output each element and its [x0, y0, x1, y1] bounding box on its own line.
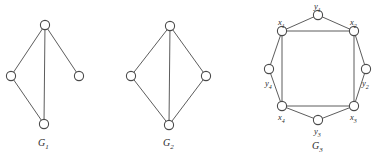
graph-edge [47, 28, 76, 72]
graph-caption-G1: G1 [38, 138, 49, 151]
graph-edge [44, 29, 45, 120]
graph-vertex [165, 21, 174, 30]
vertex-label-y4: y4 [265, 79, 272, 90]
vertex-label-subscript: 1 [318, 7, 321, 13]
graph-edge [270, 35, 280, 65]
graph-edge [286, 108, 314, 119]
vertex-label-y3: y3 [314, 127, 321, 138]
graph-vertex [264, 64, 273, 73]
graph-vertex [164, 120, 173, 129]
graph-vertex [277, 101, 286, 110]
vertex-label-subscript: 3 [318, 132, 321, 138]
graph-vertex [40, 20, 49, 29]
graph-vertex [361, 64, 370, 73]
graph-edge [322, 17, 350, 30]
vertex-label-subscript: 4 [282, 118, 285, 124]
graph-vertex [201, 71, 210, 80]
vertex-label-y2: y2 [362, 79, 369, 90]
graph-caption-G3: G3 [312, 141, 323, 154]
graph-caption-subscript: 1 [45, 143, 49, 151]
graph-figure-canvas [0, 0, 379, 157]
graph-vertex [39, 119, 48, 128]
vertex-label-y1: y1 [314, 2, 321, 13]
graph-vertex [349, 101, 358, 110]
graph-edge [134, 79, 167, 121]
vertices-layer [6, 10, 370, 129]
graph-edge [172, 29, 203, 72]
graph-edge [169, 30, 170, 121]
graph-vertex [74, 71, 83, 80]
graph-edge [13, 79, 41, 120]
vertex-label-subscript: 4 [269, 84, 272, 90]
graph-edge [355, 35, 364, 65]
vertex-label-x1: x1 [278, 18, 285, 29]
graph-vertex [313, 115, 322, 124]
vertex-label-x4: x4 [278, 113, 285, 124]
graph-edge [172, 79, 204, 121]
graph-edge [270, 73, 280, 102]
graph-edge [134, 29, 168, 72]
graph-edge [322, 108, 350, 119]
graph-edge [13, 28, 42, 72]
graph-figure: G1G2y1x2y2x3y3x4y4x1G3 [0, 0, 379, 157]
edges-layer [13, 17, 364, 122]
graph-caption-G2: G2 [163, 138, 174, 151]
vertex-label-x2: x2 [350, 18, 357, 29]
graph-caption-subscript: 3 [319, 146, 323, 154]
graph-edge [286, 17, 314, 30]
graph-vertex [6, 71, 15, 80]
vertex-label-subscript: 1 [282, 23, 285, 29]
vertex-label-subscript: 2 [366, 84, 369, 90]
vertex-label-x3: x3 [350, 113, 357, 124]
graph-caption-subscript: 2 [170, 143, 174, 151]
vertex-label-subscript: 3 [354, 118, 357, 124]
graph-vertex [126, 71, 135, 80]
vertex-label-subscript: 2 [354, 23, 357, 29]
